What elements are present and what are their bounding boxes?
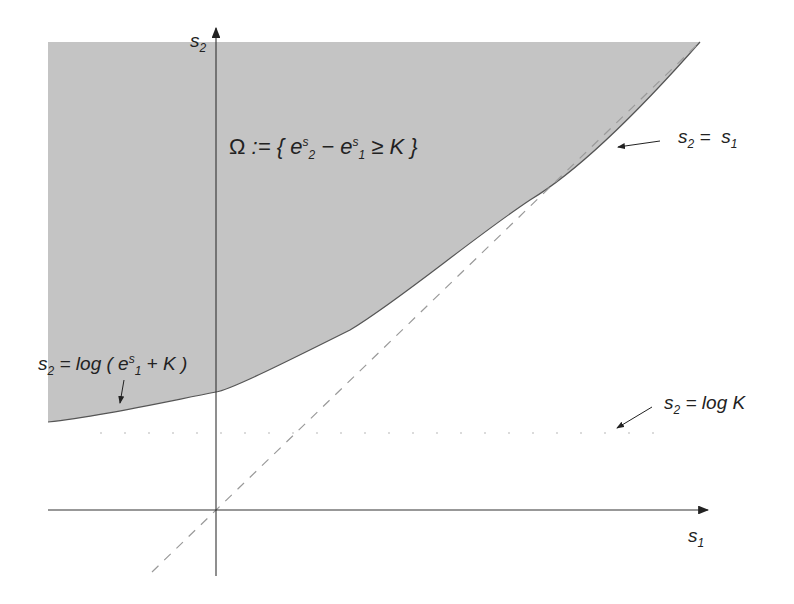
y-axis-label: s2 xyxy=(190,30,206,55)
asymptote-label: s2 = log K xyxy=(664,392,745,417)
diagram-canvas xyxy=(0,0,794,604)
omega-definition: Ω := { es2 − es1 ≥ K } xyxy=(229,134,418,162)
diagonal-label: s2 = s1 xyxy=(678,126,737,151)
asymptote-pointer-arrow xyxy=(617,407,652,428)
diagonal-pointer-arrow xyxy=(618,141,660,147)
x-axis-label: s1 xyxy=(688,525,704,550)
curve-label: s2 = log ( es1 + K ) xyxy=(38,352,187,378)
